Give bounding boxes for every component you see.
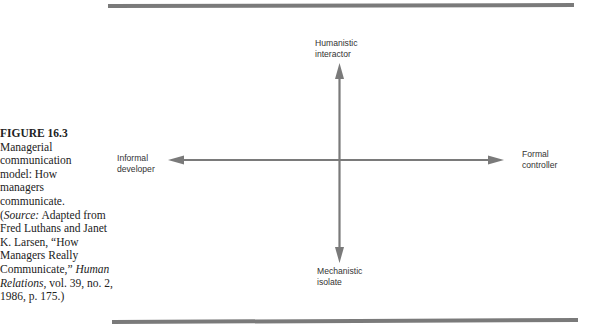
label-mechanistic-isolate: Mechanistic isolate	[317, 266, 362, 287]
label-humanistic-interactor: Humanistic interactor	[315, 38, 358, 59]
label-line: Humanistic	[315, 38, 358, 48]
label-line: controller	[522, 160, 557, 170]
arrow-left-icon	[168, 156, 184, 165]
arrow-up-icon	[335, 63, 344, 79]
arrow-down-icon	[335, 247, 344, 263]
label-formal-controller: Formal controller	[522, 149, 557, 170]
label-informal-developer: Informal developer	[117, 153, 155, 174]
communication-model-diagram	[0, 0, 594, 330]
arrow-right-icon	[488, 156, 504, 165]
label-line: interactor	[315, 49, 351, 59]
label-line: isolate	[317, 277, 342, 287]
label-line: Informal	[117, 153, 148, 163]
label-line: Formal	[522, 149, 549, 159]
label-line: developer	[117, 164, 155, 174]
label-line: Mechanistic	[317, 266, 362, 276]
